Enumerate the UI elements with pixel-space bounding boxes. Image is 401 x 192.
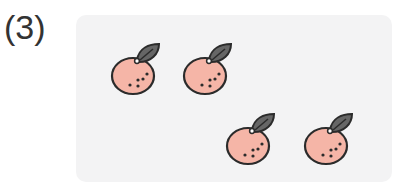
orange-icon [298,108,362,172]
orange-icon [105,38,169,102]
orange-icon [177,38,241,102]
problem-number-label: (3) [4,8,46,47]
orange-icon [220,108,284,172]
